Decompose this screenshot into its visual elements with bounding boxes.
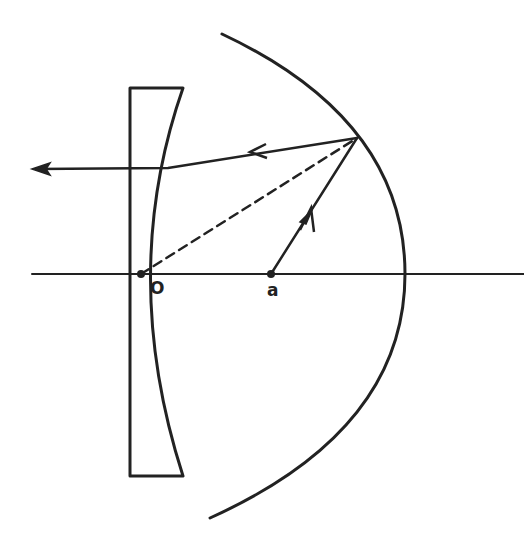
point-a — [267, 270, 275, 278]
diagram-svg — [0, 0, 524, 548]
optics-diagram: O a — [0, 0, 524, 548]
reflected-ray — [36, 138, 357, 169]
spherical-mirror — [210, 34, 405, 518]
label-point-a: a — [267, 280, 278, 300]
arrowhead-reflected — [250, 144, 267, 158]
point-O — [137, 270, 145, 278]
dashed-radius — [141, 138, 357, 274]
ray-from-a — [271, 138, 357, 274]
label-origin: O — [150, 278, 164, 298]
